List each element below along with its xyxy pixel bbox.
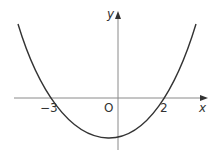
parabola-curve: [18, 24, 196, 138]
quadratic-graph: y x O −3 2: [0, 0, 221, 157]
origin-label: O: [104, 102, 113, 114]
y-axis-label: y: [107, 8, 114, 20]
tick-label-2: 2: [160, 102, 168, 114]
tick-label-neg3: −3: [40, 102, 58, 114]
graph-canvas: [0, 0, 221, 157]
y-axis-arrow-icon: [115, 11, 121, 19]
x-axis-label: x: [199, 102, 206, 114]
